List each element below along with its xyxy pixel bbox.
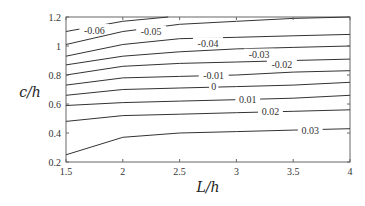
contour-label: -0.01 — [203, 70, 224, 81]
contour-label: 0 — [211, 81, 216, 92]
x-tick-label: 3.5 — [287, 166, 300, 177]
contour-label: 0.03 — [301, 125, 319, 136]
x-tick-label: 2 — [120, 166, 125, 177]
y-tick-label: 0.6 — [49, 99, 62, 110]
y-axis-label: c/h — [19, 84, 41, 100]
y-tick-label: 1 — [56, 41, 61, 52]
x-tick-label: 4 — [348, 166, 353, 177]
contour-label: -0.03 — [249, 49, 270, 60]
y-tick-label: 0.8 — [49, 70, 62, 81]
x-axis-label: L/h — [195, 179, 219, 195]
x-tick-label: 2.5 — [173, 166, 186, 177]
contour-label: 0.01 — [239, 94, 257, 105]
contour-chart: -0.06-0.05-0.04-0.03-0.02-0.0100.010.020… — [0, 0, 365, 206]
contour-label: -0.06 — [84, 25, 105, 36]
contour-label: -0.04 — [198, 38, 219, 49]
contour-label: -0.05 — [141, 26, 162, 37]
y-tick-label: 0.2 — [49, 157, 62, 168]
contour-label: 0.02 — [262, 106, 280, 117]
contour-label: -0.02 — [271, 59, 292, 70]
x-tick-label: 1.5 — [60, 166, 73, 177]
y-tick-label: 1.2 — [49, 12, 62, 23]
x-tick-label: 3 — [234, 166, 239, 177]
y-tick-label: 0.4 — [49, 128, 62, 139]
